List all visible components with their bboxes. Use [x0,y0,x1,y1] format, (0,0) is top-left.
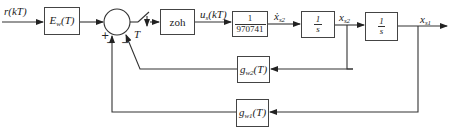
signal-us-label: us(kT) [200,9,227,22]
signal-xdot-s2-label: ẋs2 [274,11,285,24]
sampler-label: T [134,29,140,40]
signal-xs2-label: xs2 [339,12,350,25]
sum-sign-minus-1: − [106,38,114,48]
block-integrator-1[interactable]: 1 s [365,12,398,41]
block-gw2[interactable]: gw2(T) [237,56,270,83]
block-gain-fraction: 1 970741 [235,14,266,34]
block-zoh-label: zoh [170,16,186,28]
block-ew-label: Ew(T) [50,14,75,28]
block-integrator-2[interactable]: 1 s [301,11,335,38]
block-gw2-label: gw2(T) [240,63,267,77]
output-xs1-label: xs1 [420,14,431,27]
block-integrator-1-fraction: 1 s [377,17,386,37]
block-gain[interactable]: 1 970741 [232,11,268,37]
block-gw1[interactable]: gw1(T) [236,99,269,127]
block-zoh[interactable]: zoh [160,9,195,35]
block-ew[interactable]: Ew(T) [44,7,80,35]
sum-sign-minus-2: − [121,38,129,48]
block-integrator-2-fraction: 1 s [314,15,323,35]
input-label: r(kT) [4,6,27,17]
block-gw1-label: gw1(T) [239,106,266,120]
